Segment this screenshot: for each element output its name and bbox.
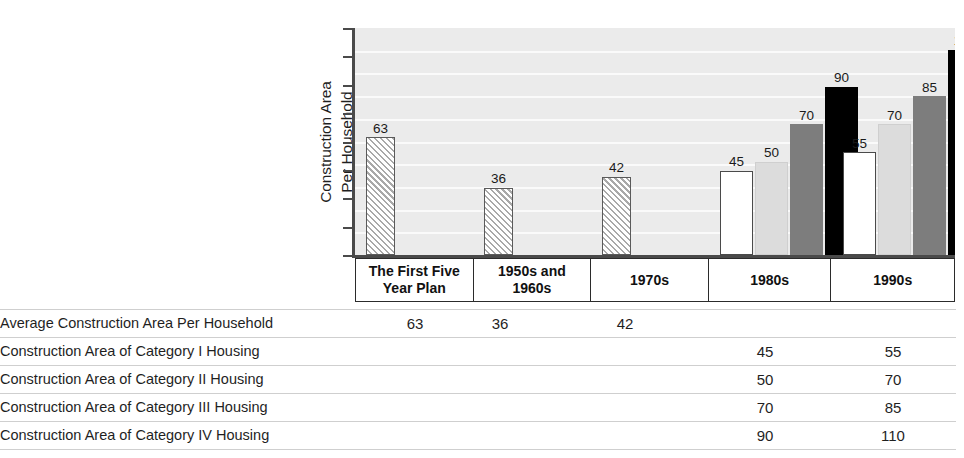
table-row: Construction Area of Category IV Housing… (0, 422, 956, 450)
table-row: Construction Area of Category I Housing4… (0, 338, 956, 366)
bar-value-label: 70 (799, 109, 814, 123)
table-row: Construction Area of Category III Housin… (0, 394, 956, 422)
table-cell-value (450, 394, 550, 422)
table-cell-value (380, 338, 450, 366)
y-axis-tick (343, 28, 353, 30)
bar-cat3[interactable] (913, 96, 946, 255)
bar-group: 63 (355, 28, 473, 255)
table-cell-value (380, 366, 450, 394)
x-axis-label-cell: 1970s (591, 259, 709, 301)
table-cell-value: 70 (700, 394, 830, 422)
table-cell-value: 42 (550, 310, 700, 338)
bar-cat4[interactable] (948, 50, 955, 255)
table-cell-value (380, 422, 450, 450)
bar-item[interactable]: 50 (755, 28, 788, 255)
bar-value-label: 63 (373, 122, 388, 136)
table-cell-value (550, 338, 700, 366)
table-cell-value: 50 (700, 366, 830, 394)
bar-item[interactable]: 36 (484, 28, 513, 255)
x-axis-label-cell: 1990s (831, 259, 954, 301)
bar-item[interactable]: 63 (366, 28, 395, 255)
x-axis-label-cell: 1980s (709, 259, 832, 301)
table-row: Construction Area of Category II Housing… (0, 366, 956, 394)
bar-item[interactable]: 70 (790, 28, 823, 255)
bar-item[interactable]: 42 (602, 28, 631, 255)
table-cell-value (450, 422, 550, 450)
data-table: Average Construction Area Per Household6… (0, 309, 956, 450)
x-axis-label-line-1: 1970s (630, 272, 669, 289)
y-axis-tick (343, 56, 353, 58)
x-axis-label-row: The First FiveYear Plan1950s and1960s197… (355, 258, 955, 302)
table-cell-value (450, 338, 550, 366)
table-cell-value (830, 310, 956, 338)
table-cell-value (550, 394, 700, 422)
bar-cat1[interactable] (843, 152, 876, 255)
table-cell-value: 45 (700, 338, 830, 366)
bar-value-label: 50 (764, 146, 779, 160)
x-axis-label-line-2: 1960s (512, 280, 551, 297)
table-row-label: Construction Area of Category III Housin… (0, 394, 380, 422)
bar-value-label: 70 (887, 109, 902, 123)
bar-value-label: 36 (491, 172, 506, 186)
x-axis-label-line-1: 1950s and (498, 263, 566, 280)
bar-value-label: 85 (922, 81, 937, 95)
bar-item[interactable]: 70 (878, 28, 911, 255)
bar-item[interactable]: 45 (720, 28, 753, 255)
table-cell-value (550, 422, 700, 450)
x-axis-label-cell: The First FiveYear Plan (356, 259, 474, 301)
x-axis-label-line-1: The First Five (369, 263, 460, 280)
y-axis-tick (343, 227, 353, 229)
table-row-label: Construction Area of Category I Housing (0, 338, 380, 366)
table-body: Average Construction Area Per Household6… (0, 310, 956, 450)
bar-value-label: 55 (852, 137, 867, 151)
bar-group: 557085110 (832, 28, 955, 255)
bar-chart-figure: Construction Area Per Household (square … (0, 0, 964, 305)
bar-item[interactable]: 85 (913, 28, 946, 255)
table-cell-value: 36 (450, 310, 550, 338)
bar-item[interactable]: 110 (948, 28, 955, 255)
table-cell-value (380, 394, 450, 422)
bar-cat2[interactable] (878, 124, 911, 255)
table-cell-value: 110 (830, 422, 956, 450)
table-row-label: Construction Area of Category IV Housing (0, 422, 380, 450)
bar-hatch[interactable] (602, 177, 631, 255)
x-axis-label-cell: 1950s and1960s (474, 259, 592, 301)
table-row: Average Construction Area Per Household6… (0, 310, 956, 338)
bar-hatch[interactable] (366, 137, 395, 255)
table-cell-value (700, 310, 830, 338)
y-axis-tick (343, 85, 353, 87)
y-axis-title-line-1: Construction Area (316, 81, 336, 203)
table-cell-value: 85 (830, 394, 956, 422)
table-cell-value: 55 (830, 338, 956, 366)
x-axis-label-line-1: 1980s (750, 272, 789, 289)
bar-value-label: 45 (729, 155, 744, 169)
bar-cat1[interactable] (720, 171, 753, 255)
bar-cat3[interactable] (790, 124, 823, 255)
y-axis-tick (343, 198, 353, 200)
table-cell-value: 90 (700, 422, 830, 450)
table-cell-value (450, 366, 550, 394)
bar-value-label: 110 (954, 34, 955, 48)
bar-group: 36 (473, 28, 591, 255)
x-axis-label-line-1: 1990s (873, 272, 912, 289)
plot-area: 63364245507090557085110 (355, 28, 955, 255)
table-row-label: Average Construction Area Per Household (0, 310, 380, 338)
bar-group: 42 (591, 28, 709, 255)
table-cell-value: 63 (380, 310, 450, 338)
table-cell-value (550, 366, 700, 394)
bar-hatch[interactable] (484, 188, 513, 255)
bar-item[interactable]: 55 (843, 28, 876, 255)
y-axis-tick (343, 142, 353, 144)
bar-cat2[interactable] (755, 162, 788, 255)
table-row-label: Construction Area of Category II Housing (0, 366, 380, 394)
bar-value-label: 42 (609, 161, 624, 175)
table-cell-value: 70 (830, 366, 956, 394)
bar-groups: 63364245507090557085110 (355, 28, 955, 255)
y-axis-tick (343, 170, 353, 172)
x-axis-label-line-2: Year Plan (383, 280, 446, 297)
y-axis-tick (343, 113, 353, 115)
bar-group: 45507090 (709, 28, 832, 255)
